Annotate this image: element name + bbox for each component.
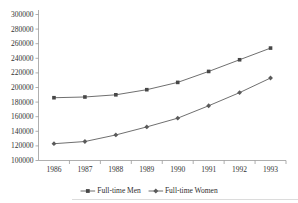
women-data-point bbox=[237, 90, 242, 95]
women-data-point bbox=[206, 103, 211, 108]
men-data-point bbox=[176, 81, 180, 85]
bottom-divider bbox=[72, 199, 298, 200]
y-tick-label: 220000 bbox=[11, 68, 34, 77]
x-tick-label: 1992 bbox=[232, 165, 247, 174]
men-data-point bbox=[52, 96, 56, 100]
men-data-point bbox=[83, 95, 87, 99]
women-data-point bbox=[113, 133, 118, 138]
y-tick-label: 140000 bbox=[11, 127, 34, 136]
men-series-line bbox=[54, 48, 271, 98]
y-tick-label: 180000 bbox=[11, 98, 34, 107]
men-data-point bbox=[238, 58, 242, 62]
men-data-point bbox=[207, 70, 211, 74]
men-data-point bbox=[269, 46, 273, 50]
x-tick-label: 1993 bbox=[263, 165, 278, 174]
y-tick-label: 280000 bbox=[11, 25, 34, 34]
x-tick-label: 1987 bbox=[77, 165, 92, 174]
y-tick-label: 160000 bbox=[11, 112, 34, 121]
men-series-marker-icon bbox=[80, 187, 95, 195]
women-data-point bbox=[268, 76, 273, 81]
earnings-line-chart: 1000001200001400001600001800002000002200… bbox=[0, 0, 298, 203]
legend-label-men: Full-time Men bbox=[97, 186, 141, 195]
x-tick-label: 1988 bbox=[108, 165, 123, 174]
y-tick-label: 240000 bbox=[11, 54, 34, 63]
x-tick-label: 1986 bbox=[46, 165, 61, 174]
y-tick-label: 260000 bbox=[11, 39, 34, 48]
y-tick-label: 120000 bbox=[11, 141, 34, 150]
legend-item-women: Full-time Women bbox=[148, 186, 218, 195]
women-data-point bbox=[83, 139, 88, 144]
women-data-point bbox=[52, 141, 57, 146]
x-tick-label: 1991 bbox=[201, 165, 216, 174]
women-data-point bbox=[175, 116, 180, 121]
x-tick-label: 1989 bbox=[139, 165, 154, 174]
plot-area: 1000001200001400001600001800002000002200… bbox=[0, 0, 298, 203]
x-tick-label: 1990 bbox=[170, 165, 185, 174]
legend-item-men: Full-time Men bbox=[80, 186, 141, 195]
women-series-line bbox=[54, 78, 271, 144]
chart-legend: Full-time Men Full-time Women bbox=[80, 186, 217, 195]
y-tick-label: 200000 bbox=[11, 83, 34, 92]
men-data-point bbox=[145, 88, 149, 92]
y-tick-label: 300000 bbox=[11, 10, 34, 19]
women-series-marker-icon bbox=[148, 187, 163, 195]
y-tick-label: 100000 bbox=[11, 156, 34, 165]
women-data-point bbox=[144, 125, 149, 130]
men-data-point bbox=[114, 93, 118, 97]
legend-label-women: Full-time Women bbox=[165, 186, 218, 195]
